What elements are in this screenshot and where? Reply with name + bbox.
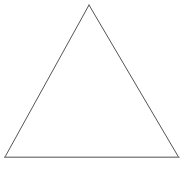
canvas-background (0, 0, 189, 173)
triangle-figure (0, 0, 189, 173)
drawing-canvas (0, 0, 189, 173)
